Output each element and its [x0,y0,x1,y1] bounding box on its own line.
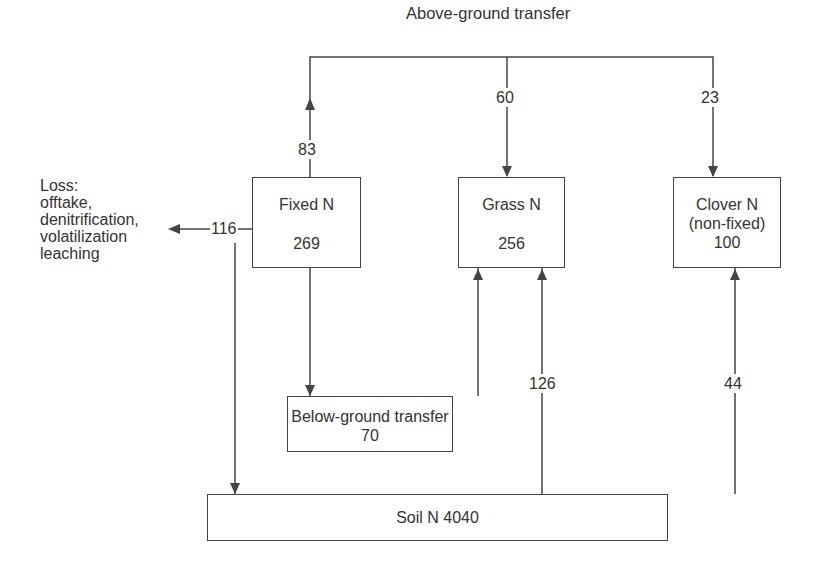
node-label: Fixed N [253,195,360,214]
loss-label: Loss: offtake, denitrification, volatili… [40,177,139,262]
flow-fixed-to-above: 83 [298,140,316,159]
above-ground-transfer-label: Above-ground transfer [406,4,570,23]
node-value: 100 [674,233,780,252]
node-below-ground-transfer: Below-ground transfer 70 [287,396,453,452]
node-value: 256 [459,234,564,253]
flow-above-to-clover: 23 [701,88,719,107]
node-clover-n: Clover N (non-fixed) 100 [673,177,781,268]
flow-soil-to-grass: 126 [529,374,556,393]
flow-soil-to-clover: 44 [724,374,742,393]
node-value: 70 [288,426,452,445]
node-grass-n: Grass N 256 [458,177,565,268]
node-label: Grass N [459,195,564,214]
node-sublabel: (non-fixed) [674,214,780,233]
node-label: Soil N 4040 [208,508,667,527]
flow-loss-value: 116 [210,219,238,238]
flow-above-to-grass: 60 [496,88,514,107]
node-label: Below-ground transfer [288,407,452,426]
node-soil-n: Soil N 4040 [207,494,668,541]
node-value: 269 [253,234,360,253]
node-label: Clover N [674,195,780,214]
node-fixed-n: Fixed N 269 [252,177,361,268]
flow-lines [0,0,817,565]
